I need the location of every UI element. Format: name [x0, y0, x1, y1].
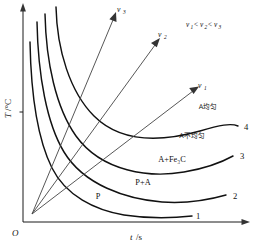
legend-op1: <: [194, 21, 199, 29]
rate-ray-v3-arrowhead: [109, 12, 116, 22]
x-axis-label-unit: /s: [136, 232, 143, 242]
rate-label-v3-sub: 3: [122, 9, 126, 15]
region-label-p-plus-a: P+A: [135, 178, 150, 187]
region-label-a-fe3c: A+Fe₃C: [158, 155, 186, 164]
y-axis-arrowhead: [20, 3, 26, 12]
axes-group: [20, 3, 251, 225]
rate-label-v2-sub: 2: [164, 34, 167, 40]
heating-rate-rays-group: [32, 12, 199, 214]
curve-number-1: 1: [196, 211, 200, 221]
x-axis-arrowhead: [242, 219, 251, 225]
origin-label: O: [12, 228, 19, 238]
rate-label-v3: v 3: [117, 5, 126, 15]
y-axis-label: T /°C: [3, 99, 13, 118]
region-label-a-nonuniform: A不均匀: [179, 131, 205, 140]
transformation-curves-group: [30, 7, 238, 218]
legend-op2: <: [208, 21, 213, 29]
region-label-a-uniform: A均匀: [199, 102, 218, 111]
rate-label-v2: v 2: [158, 30, 167, 40]
rate-label-v2-var: v: [158, 30, 162, 39]
rate-label-v1-sub: 1: [204, 85, 207, 91]
rate-ray-v1: [32, 91, 193, 214]
legend-v3: v: [214, 21, 218, 29]
y-axis-label-unit: /°C: [3, 99, 13, 111]
x-axis-label: t /s: [130, 232, 143, 242]
curve-number-4: 4: [244, 122, 249, 132]
cct-diagram-svg: v 3 v 2 v 1 v 1 < v 2 < v 3 A均匀 A不均匀 A+F…: [0, 0, 256, 248]
rate-ray-v2-arrowhead: [151, 38, 160, 47]
curve-2: [37, 22, 226, 202]
y-axis-label-var: T: [3, 112, 13, 118]
legend-inequality: v 1 < v 2 < v 3: [186, 21, 222, 30]
legend-v2: v: [200, 21, 204, 29]
rate-label-v3-var: v: [117, 5, 121, 14]
curve-3: [45, 14, 233, 174]
legend-v1: v: [186, 21, 190, 29]
legend-v3-sub: 3: [218, 24, 222, 30]
x-axis-label-var: t: [130, 232, 133, 242]
figure-canvas: v 3 v 2 v 1 v 1 < v 2 < v 3 A均匀 A不均匀 A+F…: [0, 0, 256, 248]
curve-number-3: 3: [240, 151, 244, 161]
rate-label-v1: v 1: [198, 81, 207, 91]
curve-number-2: 2: [233, 191, 237, 201]
rate-label-v1-var: v: [198, 81, 202, 90]
region-label-p: P: [96, 192, 101, 201]
